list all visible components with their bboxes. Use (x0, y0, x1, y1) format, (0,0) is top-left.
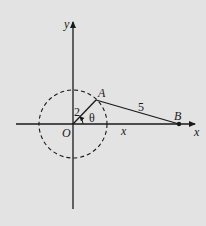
OA-length-label: 2 (74, 105, 80, 119)
OB-distance-label: x (120, 124, 127, 138)
y-axis-label: y (63, 17, 70, 31)
angle-arc-icon (80, 117, 83, 124)
AB-length-label: 5 (138, 100, 144, 114)
diagram-canvas: y A 5 2 θ O x B x (0, 0, 206, 226)
theta-label: θ (89, 111, 95, 125)
point-B-label: B (174, 109, 182, 123)
crank-diagram: y A 5 2 θ O x B x (0, 0, 206, 226)
x-axis-label: x (193, 125, 200, 139)
point-A-label: A (97, 86, 106, 100)
origin-label: O (62, 126, 71, 140)
